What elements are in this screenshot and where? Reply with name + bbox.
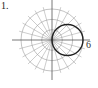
polar-graph bbox=[0, 0, 98, 88]
axis-tick-label-6: 6 bbox=[86, 39, 91, 50]
axes bbox=[12, 0, 90, 80]
